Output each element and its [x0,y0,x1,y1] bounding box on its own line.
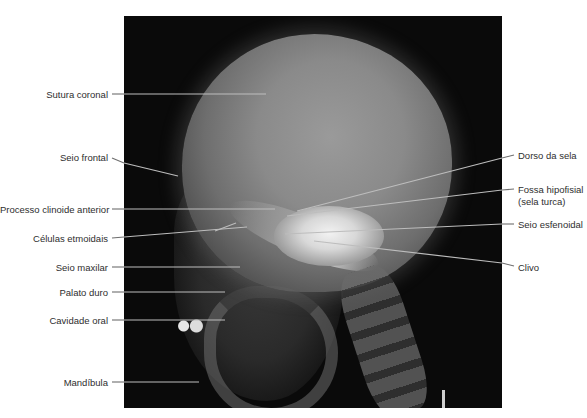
label-mandibula: Mandíbula [0,377,108,388]
label-sutura-coronal: Sutura coronal [0,89,108,100]
label-sela-turca: (sela turca) [518,196,566,207]
label-celulas-etmoidais: Células etmoidais [0,233,108,244]
label-seio-frontal: Seio frontal [0,152,108,163]
label-fossa-hipofisial: Fossa hipofisial [518,184,583,195]
label-seio-maxilar: Seio maxilar [0,262,108,273]
mandible-shape [204,286,338,408]
dental-fillings [174,318,206,334]
cervical-spine [332,260,435,408]
scale-marker [442,390,445,408]
label-seio-esfenoidal: Seio esfenoidal [518,219,583,230]
label-processo-clinoide-anterior: Processo clinoide anterior [0,204,108,215]
label-dorso-da-sela: Dorso da sela [518,150,577,161]
petrous-region [274,206,384,266]
label-clivo: Clivo [518,262,539,273]
label-palato-duro: Palato duro [0,287,108,298]
xray-panel [124,16,502,408]
label-cavidade-oral: Cavidade oral [0,315,108,326]
